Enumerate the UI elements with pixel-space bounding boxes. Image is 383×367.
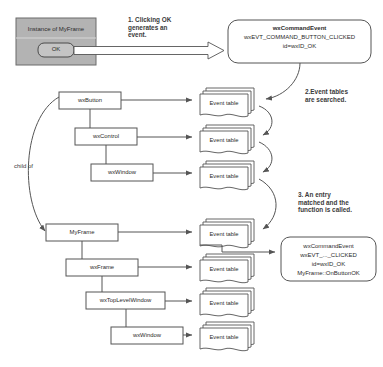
class-box-wxframe[interactable]: wxFrame: [66, 264, 138, 271]
note-event-tables-searched: 2.Event tables are searched.: [305, 88, 381, 103]
search-chain-curves: [259, 63, 300, 229]
note-clicking-ok: 1. Clicking OK generates an event.: [128, 16, 206, 39]
event-table-label-3[interactable]: Event table: [200, 173, 248, 180]
class-boxes-lower: [46, 224, 183, 344]
event-table-stacks: [200, 88, 254, 351]
result-object-line-4: MyFrame::OnButtonOK: [281, 270, 376, 277]
class-box-wxcontrol[interactable]: wxControl: [75, 133, 137, 140]
event-object-line-1: wxCommandEvent: [228, 25, 371, 32]
class-links-lower: [82, 241, 126, 327]
class-box-myframe[interactable]: MyFrame: [46, 229, 118, 236]
class-box-wxtoplevelwindow[interactable]: wxTopLevelWindow: [86, 297, 165, 304]
event-table-label-2[interactable]: Event table: [200, 137, 248, 144]
note-entry-matched: 3. An entry matched and the function is …: [298, 191, 382, 214]
ok-button-label[interactable]: OK: [38, 46, 74, 53]
event-table-label-1[interactable]: Event table: [200, 100, 248, 107]
event-object-line-2: wxEVT_COMMAND_BUTTON_CLICKED: [228, 34, 371, 41]
event-table-label-4[interactable]: Event table: [200, 231, 248, 238]
app-window-title: Instance of MyFrame: [16, 26, 96, 33]
diagram-canvas: Instance of MyFrame OK 1. Clicking OK ge…: [0, 0, 383, 367]
event-table-label-6[interactable]: Event table: [200, 300, 248, 307]
result-object-line-1: wxCommandEvent: [281, 243, 376, 250]
class-box-wxbutton[interactable]: wxButton: [59, 97, 121, 104]
event-table-label-7[interactable]: Event table: [200, 334, 248, 341]
child-of-label: child of: [14, 163, 54, 170]
event-table-label-5[interactable]: Event table: [200, 266, 248, 273]
class-box-wxwindow-upper[interactable]: wxWindow: [91, 169, 153, 176]
diagram-shapes: [0, 0, 383, 367]
event-object-line-3: id=wxID_OK: [228, 43, 371, 50]
result-object-line-2: wxEVT_..._CLICKED: [281, 252, 376, 259]
result-object-line-3: id=wxID_OK: [281, 261, 376, 268]
class-box-wxwindow-lower[interactable]: wxWindow: [111, 332, 183, 339]
